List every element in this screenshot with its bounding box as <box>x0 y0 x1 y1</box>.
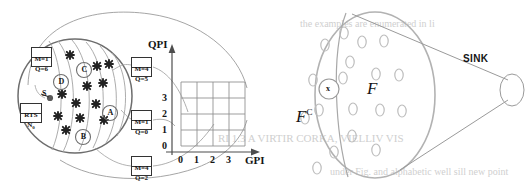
set-label-fc: FC <box>296 108 312 125</box>
x-tick-2: 2 <box>210 155 215 165</box>
node-label-b: B <box>80 133 87 141</box>
callout-box-m1q0-line2: Q=0 <box>135 128 148 136</box>
callout-box-m1q6: M=1 Q=6 <box>31 47 52 67</box>
figure-canvas: RI 1.3 A VIRTIR CORKA, VIELLIV VIS the e… <box>0 0 531 189</box>
x-tick-0: 0 <box>178 155 183 165</box>
set-label-f: F <box>367 80 377 97</box>
node-label-s: S <box>42 90 46 98</box>
callout-box-rts: RTS N0 <box>20 103 42 123</box>
sink-cone <box>352 14 524 170</box>
sink-label: SINK <box>463 54 489 64</box>
element-blobs <box>301 27 406 174</box>
x-axis-title: GPI <box>245 155 265 166</box>
callout-box-m1q0: M=1 Q=0 <box>131 110 152 130</box>
callout-box-m1q6-line2: Q=6 <box>35 65 48 73</box>
x-tick-1: 1 <box>194 155 199 165</box>
callout-box-m4q2-line2: Q=2 <box>135 174 148 182</box>
y-tick-2: 2 <box>162 109 167 119</box>
point-x-label: x <box>326 85 330 93</box>
chart-gridlines <box>181 82 245 146</box>
node-label-c: C <box>81 66 88 74</box>
relay-node-markers <box>54 51 113 134</box>
callout-box-rts-line2: N0 <box>27 121 35 129</box>
y-tick-3: 3 <box>162 93 167 103</box>
diagram-svg <box>0 0 531 189</box>
callout-box-m4q5: M=4 Q=5 <box>131 57 152 77</box>
node-label-d: D <box>58 78 65 86</box>
callout-box-m4q2: M=4 Q=2 <box>131 156 152 176</box>
x-tick-3: 3 <box>226 155 231 165</box>
callout-box-m4q5-line2: Q=5 <box>135 75 148 83</box>
y-tick-0: 0 <box>162 141 167 151</box>
set-label-fc-superscript: C <box>306 107 312 117</box>
y-tick-1: 1 <box>162 125 167 135</box>
y-axis-title: QPI <box>148 39 168 50</box>
node-label-a: A <box>107 109 114 117</box>
